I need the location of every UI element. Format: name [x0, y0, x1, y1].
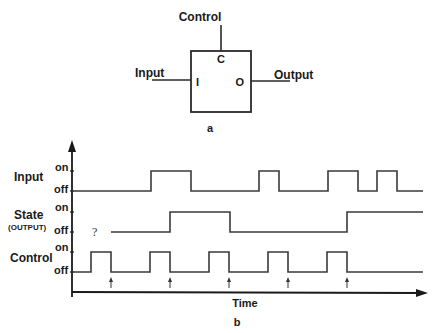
control-waveform: [72, 252, 423, 272]
port-o-label: O: [235, 76, 244, 88]
unknown-state-marker: ?: [92, 225, 97, 239]
state-on-label: on: [55, 201, 69, 213]
sample-arrow-icon: [109, 277, 113, 288]
sample-arrow-icon: [227, 277, 231, 288]
timing-diagram: Time b Input on off State (OUTPUT) on of…: [8, 140, 428, 328]
x-axis: [72, 292, 422, 293]
signal-name-input: Input: [14, 170, 43, 184]
port-i-label: I: [196, 76, 199, 88]
port-c-label: C: [217, 53, 225, 65]
state-waveform: [111, 212, 423, 232]
control-label: Control: [179, 10, 222, 24]
sample-arrow-icon: [345, 277, 349, 288]
block-diagram: Control C Input I O Output a: [135, 10, 313, 134]
x-axis-arrow-icon: [416, 289, 428, 297]
signal-name-control: Control: [10, 251, 53, 265]
input-waveform: [72, 171, 423, 191]
input-on-label: on: [55, 161, 69, 173]
caption-a: a: [207, 122, 214, 134]
x-axis-label: Time: [232, 297, 257, 309]
signal-name-state: State: [14, 208, 44, 222]
flipflop-diagram: Control C Input I O Output a Time b Inpu…: [0, 0, 435, 333]
sample-arrows: [109, 277, 349, 288]
control-on-label: on: [55, 241, 69, 253]
state-off-label: off: [54, 224, 68, 236]
caption-b: b: [234, 316, 241, 328]
input-off-label: off: [54, 183, 68, 195]
sample-arrow-icon: [286, 277, 290, 288]
signal-sub-output: (OUTPUT): [8, 223, 47, 232]
control-off-label: off: [54, 264, 68, 276]
sample-arrow-icon: [168, 277, 172, 288]
y-axis-arrow-icon: [68, 140, 76, 152]
output-label: Output: [274, 68, 313, 82]
input-label: Input: [135, 66, 164, 80]
